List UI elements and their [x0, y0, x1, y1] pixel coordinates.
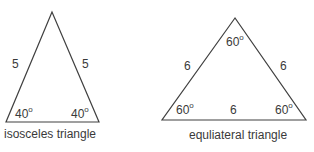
equilateral-angle-top: 60o: [226, 36, 244, 48]
isosceles-angle-right: 40o: [71, 108, 89, 120]
isosceles-side-right-label: 5: [82, 58, 89, 70]
isosceles-side-left-label: 5: [12, 58, 19, 70]
degree-symbol: o: [84, 105, 88, 114]
isosceles-angle-left-value: 40: [15, 107, 28, 121]
equilateral-side-left-label: 6: [184, 60, 191, 72]
equilateral-angle-right: 60o: [275, 104, 293, 116]
isosceles-caption: isosceles triangle: [4, 127, 96, 141]
degree-symbol: o: [239, 33, 243, 42]
equilateral-side-right-label: 6: [280, 60, 287, 72]
equilateral-angle-right-value: 60: [275, 103, 288, 117]
degree-symbol: o: [28, 105, 32, 114]
equilateral-angle-top-value: 60: [226, 35, 239, 49]
degree-symbol: o: [288, 101, 292, 110]
isosceles-angle-right-value: 40: [71, 107, 84, 121]
equilateral-side-bottom-label: 6: [230, 104, 237, 116]
equilateral-caption: equliateral triangle: [189, 128, 287, 142]
degree-symbol: o: [189, 101, 193, 110]
equilateral-angle-left-value: 60: [176, 103, 189, 117]
isosceles-angle-left: 40o: [15, 108, 33, 120]
equilateral-angle-left: 60o: [176, 104, 194, 116]
